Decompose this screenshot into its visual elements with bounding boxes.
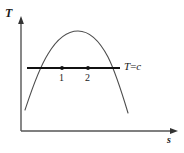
state-point-1-marker [60,66,64,70]
y-axis-arrowhead-icon [18,16,24,24]
plot-canvas [0,0,184,153]
isotherm-label: T=c [124,61,141,72]
ts-diagram-figure: T s 1 2 T=c [0,0,184,153]
state-point-1-label: 1 [59,73,64,83]
axes-group [18,16,178,134]
state-point-2-marker [86,66,90,70]
x-axis-arrowhead-icon [170,128,178,134]
state-point-2-label: 2 [85,73,90,83]
y-axis-label: T [5,7,12,19]
isotherm-label-constant: c [136,60,141,72]
saturation-dome-curve [25,31,128,113]
x-axis-label: s [167,135,171,145]
